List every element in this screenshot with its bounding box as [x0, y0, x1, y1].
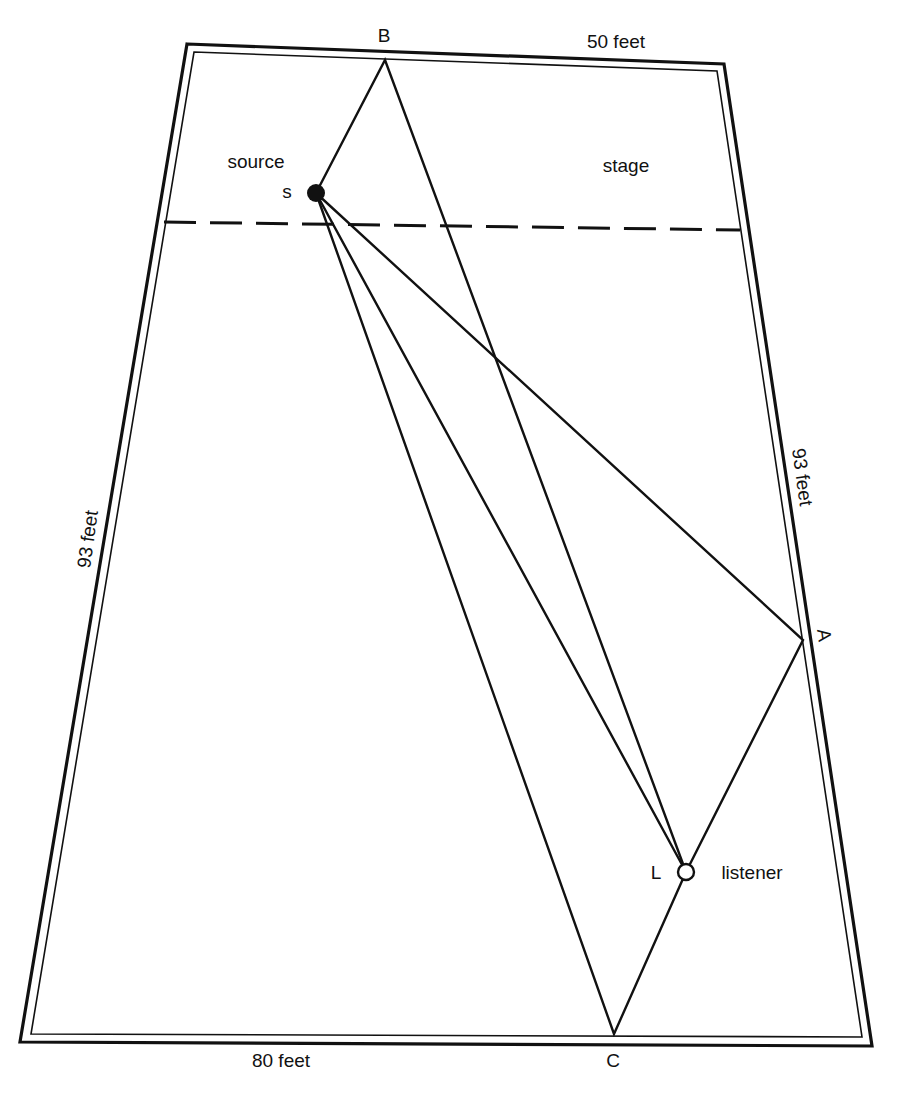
hall-diagram: B 50 feet source s stage 93 feet 93 feet…	[0, 0, 904, 1100]
label-c: C	[606, 1050, 620, 1071]
listener-point-marker	[678, 864, 694, 880]
label-bottom-width: 80 feet	[252, 1050, 311, 1071]
reflection-path-c	[316, 193, 686, 1034]
label-listener-point: L	[651, 862, 662, 883]
hall-outer-wall	[20, 44, 872, 1046]
label-b: B	[378, 25, 391, 46]
hall-inner-wall	[31, 52, 862, 1037]
label-a: A	[813, 627, 836, 643]
label-top-width: 50 feet	[587, 31, 646, 52]
sound-paths	[316, 60, 803, 1034]
reflection-path-b	[316, 60, 686, 872]
direct-path	[316, 193, 686, 872]
label-stage: stage	[603, 155, 649, 176]
label-source-point: s	[282, 181, 292, 202]
label-right-side: 93 feet	[788, 447, 817, 508]
label-source: source	[227, 151, 284, 172]
stage-boundary-line	[164, 222, 740, 230]
source-point-marker	[307, 184, 325, 202]
label-listener: listener	[721, 862, 783, 883]
label-left-side: 93 feet	[73, 508, 102, 569]
